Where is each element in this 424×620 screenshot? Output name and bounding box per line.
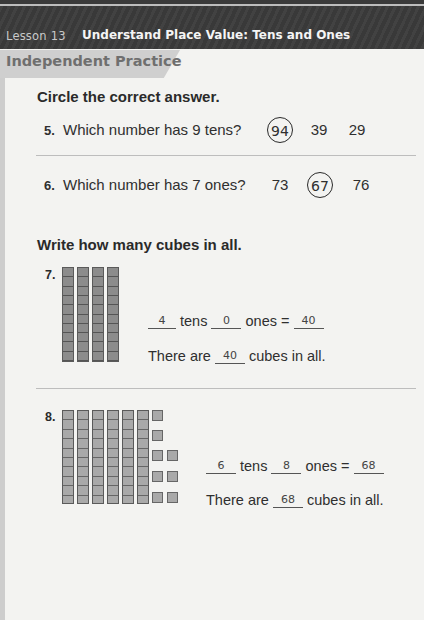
choice[interactable]: 29 <box>344 117 370 143</box>
tens-label: tens <box>180 313 207 329</box>
ones-cube <box>152 450 163 461</box>
tens-rod <box>137 410 149 504</box>
tens-answer[interactable]: 4 <box>148 314 176 329</box>
sentence-answer[interactable]: 68 <box>273 493 303 508</box>
question-number: 6. <box>44 178 55 193</box>
question-text: Which number has 7 ones? <box>63 176 246 193</box>
choice[interactable]: 39 <box>306 117 332 143</box>
tens-answer[interactable]: 6 <box>206 459 236 474</box>
question-number: 5. <box>44 123 55 138</box>
choice-circled[interactable]: 67 <box>307 172 333 198</box>
divider <box>36 155 416 156</box>
ones-cube <box>167 471 178 482</box>
tens-rod <box>107 410 119 504</box>
lesson-label: Lesson 13 <box>6 29 66 43</box>
sentence-answer[interactable]: 40 <box>215 349 245 364</box>
tens-rod <box>92 267 104 362</box>
ones-answer[interactable]: 8 <box>271 459 301 474</box>
sentence-suffix: cubes in all. <box>307 492 384 508</box>
ones-cube <box>167 492 178 503</box>
tens-rod <box>107 267 119 362</box>
equation-7: 4 tens 0 ones = 40 <box>148 313 324 329</box>
total-answer[interactable]: 68 <box>354 459 384 474</box>
ones-answer[interactable]: 0 <box>211 314 241 329</box>
total-answer[interactable]: 40 <box>294 314 324 329</box>
sentence-suffix: cubes in all. <box>249 348 326 364</box>
question-5: 5. Which number has 9 tens? <box>44 121 241 138</box>
page-margin <box>0 78 5 620</box>
choice[interactable]: 76 <box>348 172 374 198</box>
item-number: 8. <box>45 410 55 424</box>
tens-rod <box>62 267 74 362</box>
sentence-prefix: There are <box>206 492 269 508</box>
tens-rod <box>77 267 89 362</box>
question-6: 6. Which number has 7 ones? <box>44 176 246 193</box>
ones-cube <box>152 430 163 441</box>
part1-instruction: Circle the correct answer. <box>37 88 220 105</box>
ones-cube <box>152 471 163 482</box>
tens-rod <box>77 410 89 504</box>
section-title: Independent Practice <box>6 53 181 69</box>
tens-label: tens <box>240 458 267 474</box>
question-text: Which number has 9 tens? <box>63 121 241 138</box>
divider <box>36 388 416 389</box>
sentence-7: There are 40 cubes in all. <box>148 348 326 364</box>
sentence-8: There are 68 cubes in all. <box>206 492 384 508</box>
ones-cube <box>152 410 163 421</box>
ones-label: ones = <box>306 458 350 474</box>
ones-cube <box>152 492 163 503</box>
tens-rod <box>62 410 74 504</box>
item-number: 7. <box>45 268 55 282</box>
choice[interactable]: 73 <box>267 172 293 198</box>
part2-instruction: Write how many cubes in all. <box>37 236 242 253</box>
equation-8: 6 tens 8 ones = 68 <box>206 458 384 474</box>
tens-rod <box>92 410 104 504</box>
choice-circled[interactable]: 94 <box>267 117 293 143</box>
lesson-title: Understand Place Value: Tens and Ones <box>82 28 350 42</box>
ones-cube <box>167 450 178 461</box>
ones-label: ones = <box>246 313 290 329</box>
tens-rod <box>122 410 134 504</box>
sentence-prefix: There are <box>148 348 211 364</box>
